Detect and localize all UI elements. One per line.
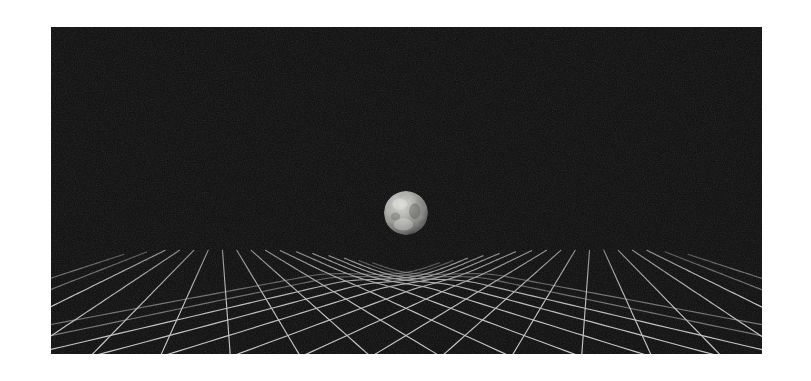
grid-line xyxy=(86,256,483,354)
grid-line xyxy=(222,250,230,354)
grid-line xyxy=(329,256,726,354)
grid-line xyxy=(313,254,655,354)
grid-line xyxy=(665,252,762,305)
grid-line xyxy=(89,250,194,354)
grid-line xyxy=(280,251,513,354)
spacetime-field-panel xyxy=(51,27,762,354)
grid-line-group xyxy=(51,250,762,354)
figure-caption xyxy=(51,358,762,378)
grid-line xyxy=(157,254,499,354)
spacetime-grid xyxy=(51,27,762,354)
grid-line xyxy=(298,251,531,354)
grid-line xyxy=(688,254,762,290)
grid-line xyxy=(618,250,723,354)
figure-root xyxy=(0,0,811,381)
grid-line xyxy=(582,250,590,354)
grid-line xyxy=(51,252,147,303)
